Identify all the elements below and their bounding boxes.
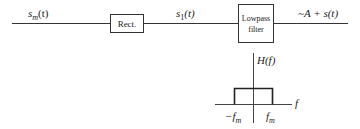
lowpass-filter-line2: filter [238, 25, 274, 36]
positive-cutoff-label: fm [266, 111, 275, 125]
lowpass-filter-line1: Lowpass [238, 14, 274, 25]
rectifier-label: Rect. [110, 18, 144, 30]
transfer-function-label: H(f) [257, 55, 275, 66]
frequency-axis-label: f [295, 98, 298, 109]
input-signal-label: sm(t) [28, 8, 48, 22]
negative-cutoff-label: −fm [225, 111, 241, 125]
lowpass-filter-label: Lowpass filter [238, 14, 274, 36]
output-signal-label: ~A + s(t) [298, 8, 338, 19]
intermediate-signal-label: s1(t) [176, 8, 195, 22]
